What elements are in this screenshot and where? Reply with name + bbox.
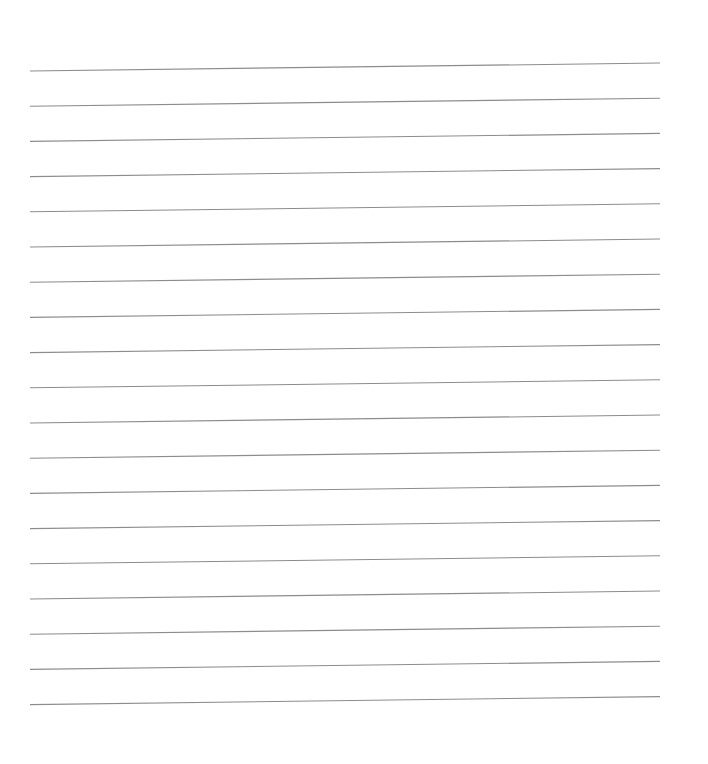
ruled-line [30,450,660,458]
ruled-line [30,591,660,599]
ruled-line [30,661,660,669]
ruled-line [30,204,660,212]
ruled-line [30,697,660,705]
ruled-line [30,63,660,71]
ruled-line [30,274,660,282]
ruled-line [30,309,660,317]
ruled-line [30,380,660,388]
ruled-line [30,345,660,353]
ruled-line [30,133,660,141]
ruled-line [30,169,660,177]
ruled-lines [0,0,708,764]
ruled-line [30,485,660,493]
lined-paper-sheet [0,0,708,764]
ruled-line [30,626,660,634]
ruled-line [30,415,660,423]
ruled-line [30,556,660,564]
ruled-line [30,98,660,106]
ruled-line [30,521,660,529]
ruled-line [30,239,660,247]
